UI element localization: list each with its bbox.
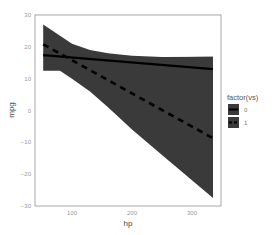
y-axis-ticks: 3020100−10−20−30 [21, 12, 32, 209]
x-tick-label: 200 [127, 210, 138, 216]
x-tick-label: 300 [187, 210, 198, 216]
x-tick-label: 100 [67, 210, 78, 216]
x-axis-ticks: 100200300 [67, 210, 198, 216]
y-tick-label: −10 [21, 139, 32, 145]
y-tick-label: 30 [24, 12, 31, 18]
legend-item-1: 1 [228, 117, 248, 128]
legend: factor(vs) 0 1 [227, 93, 259, 128]
y-tick-label: −30 [21, 203, 32, 209]
legend-label-1: 1 [244, 120, 248, 126]
legend-title: factor(vs) [227, 93, 259, 102]
y-tick-label: 20 [24, 44, 31, 50]
y-axis-label: mpg [7, 102, 16, 118]
legend-item-0: 0 [228, 104, 248, 115]
y-tick-label: 0 [28, 108, 32, 114]
y-tick-label: 10 [24, 76, 31, 82]
legend-label-0: 0 [244, 107, 248, 113]
plot-area [43, 25, 213, 198]
y-tick-label: −20 [21, 171, 32, 177]
chart: 3020100−10−20−30 100200300 hp mpg factor… [0, 0, 278, 235]
x-axis-label: hp [124, 219, 133, 228]
confidence-ribbon-1 [43, 25, 213, 198]
